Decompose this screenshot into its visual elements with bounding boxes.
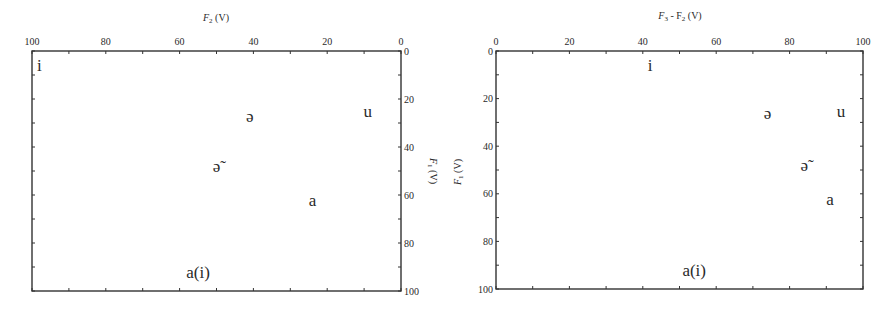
vowel-point-ə̃: ə̃ (213, 157, 227, 176)
left-x-axis-title: F2 (V) (202, 12, 229, 25)
x-tick-label: 100 (25, 36, 40, 47)
x-tick-label: 40 (638, 36, 648, 47)
vowel-point-u: u (364, 102, 373, 121)
y-tick-label: 0 (404, 46, 409, 57)
vowel-point-i: i (648, 56, 653, 75)
vowel-point-a(i): a(i) (186, 263, 210, 282)
x-tick-label: 20 (322, 36, 332, 47)
left-chart-f2-vs-f1: 100806040200020406080100 F2 (V) F1 (V) i… (25, 12, 440, 297)
y-tick-label: 40 (483, 141, 493, 152)
x-tick-label: 0 (494, 36, 499, 47)
vowel-point-a(i): a(i) (682, 261, 706, 280)
vowel-point-ə: ə (764, 104, 772, 123)
x-tick-label: 60 (175, 36, 185, 47)
vowel-point-a: a (826, 190, 834, 209)
vowel-point-a: a (309, 191, 317, 210)
y-tick-label: 60 (404, 190, 414, 201)
x-tick-label: 100 (856, 36, 871, 47)
x-tick-label: 40 (248, 36, 258, 47)
y-tick-label: 100 (478, 284, 493, 295)
y-tick-label: 40 (404, 142, 414, 153)
x-tick-label: 80 (785, 36, 795, 47)
x-tick-label: 0 (399, 36, 404, 47)
y-tick-label: 0 (488, 46, 493, 57)
right-chart-f3f2-vs-f1: 020406080100020406080100 F3 - F2 (V) F1 … (452, 10, 871, 295)
vowel-point-u: u (837, 102, 846, 121)
x-tick-label: 80 (101, 36, 111, 47)
x-tick-label: 60 (711, 36, 721, 47)
y-tick-label: 80 (483, 236, 493, 247)
left-tick-labels: 100806040200020406080100 (25, 36, 420, 297)
right-data-points: iəuə̃aa(i) (648, 56, 846, 280)
left-y-axis-title: F1 (V) (426, 157, 439, 184)
y-tick-label: 20 (483, 93, 493, 104)
x-tick-label: 20 (564, 36, 574, 47)
y-tick-label: 60 (483, 188, 493, 199)
vowel-point-ə̃: ə̃ (801, 156, 815, 175)
vowel-point-ə: ə (246, 107, 254, 126)
y-tick-label: 20 (404, 94, 414, 105)
figure: 100806040200020406080100 F2 (V) F1 (V) i… (0, 0, 889, 317)
y-tick-label: 80 (404, 238, 414, 249)
y-tick-label: 100 (404, 286, 419, 297)
right-y-axis-title: F1 (V) (452, 159, 465, 186)
formant-charts: 100806040200020406080100 F2 (V) F1 (V) i… (0, 0, 889, 317)
right-tick-labels: 020406080100020406080100 (478, 36, 871, 295)
right-x-axis-title: F3 - F2 (V) (657, 10, 701, 23)
left-data-points: iəuə̃aa(i) (37, 56, 373, 281)
vowel-point-i: i (37, 56, 42, 75)
